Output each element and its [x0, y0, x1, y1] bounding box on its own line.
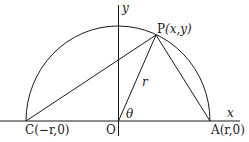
- radius-label: r: [142, 75, 149, 89]
- point-A-name: A: [210, 123, 220, 137]
- point-C-name: C: [25, 123, 34, 137]
- segment-PA: [156, 35, 210, 121]
- semicircle-diagram: y x P(x,y) r θ C(−r,0) O A(r,0): [0, 0, 249, 142]
- angle-theta-label: θ: [126, 107, 134, 121]
- segment-CP: [26, 35, 156, 121]
- point-A-label: A(r,0): [210, 123, 245, 137]
- y-axis-label: y: [121, 1, 129, 15]
- point-C-coords: (−r,0): [34, 123, 69, 137]
- point-P-name: P: [157, 22, 165, 36]
- point-P-coords: (x,y): [165, 22, 192, 36]
- point-A-coords: (r,0): [220, 123, 245, 137]
- x-axis-label: x: [227, 106, 234, 120]
- point-C-label: C(−r,0): [25, 123, 69, 137]
- point-O-label: O: [106, 123, 116, 137]
- point-P-label: P(x,y): [157, 22, 192, 36]
